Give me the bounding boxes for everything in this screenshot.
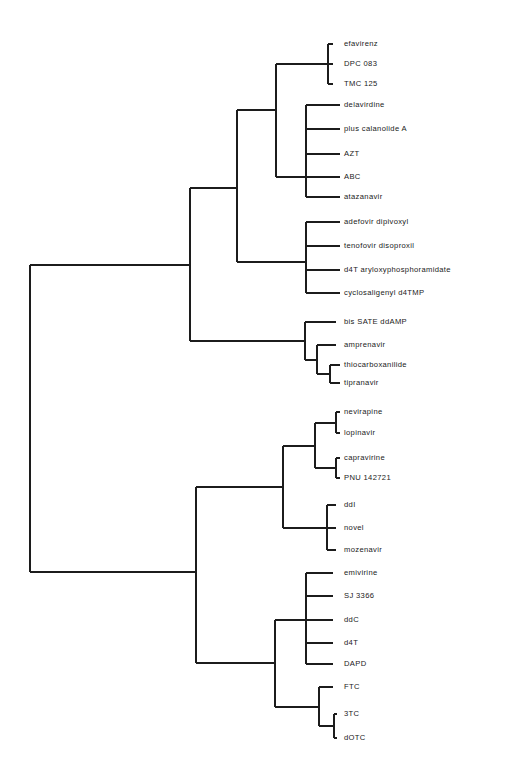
leaf-label-thiocarboxanilide: thiocarboxanilide [344,360,407,369]
leaf-label-3tc: 3TC [344,709,360,718]
leaf-label-azt: AZT [344,149,359,158]
leaf-label-capravirine: capravirine [344,453,385,462]
leaf-label-amprenavir: amprenavir [344,340,386,349]
dendrogram-figure: efavirenzDPC 083TMC 125delavirdineplus c… [0,0,508,772]
leaf-label-dapd: DAPD [344,659,367,668]
leaf-label-tipranavir: tipranavir [344,378,379,387]
leaf-label-abc: ABC [344,172,361,181]
leaf-label-lopinavir: lopinavir [344,428,376,437]
branch-lines-group [30,44,340,738]
leaf-labels-group: efavirenzDPC 083TMC 125delavirdineplus c… [344,39,451,742]
leaf-label-plus-calanolide-a: plus calanolide A [344,124,408,133]
leaf-label-emivirine: emivirine [344,568,378,577]
leaf-label-novel: novel [344,523,364,532]
leaf-label-tmc-125: TMC 125 [344,79,378,88]
leaf-label-sj-3366: SJ 3366 [344,591,374,600]
leaf-label-bis-sate-ddamp: bis SATE ddAMP [344,317,407,326]
leaf-label-efavirenz: efavirenz [344,39,378,48]
leaf-label-ddc: ddC [344,615,359,624]
leaf-label-ftc: FTC [344,682,360,691]
leaf-label-cyclosaligenyl-d4tmp: cyclosaligenyl d4TMP [344,288,424,297]
leaf-label-atazanavir: atazanavir [344,192,383,201]
leaf-label-ddi: ddI [344,500,356,509]
dendrogram-canvas: efavirenzDPC 083TMC 125delavirdineplus c… [0,0,508,772]
leaf-label-dotc: dOTC [344,733,366,742]
leaf-label-delavirdine: delavirdine [344,100,385,109]
leaf-label-nevirapine: nevirapine [344,407,383,416]
leaf-label-mozenavir: mozenavir [344,545,382,554]
leaf-label-tenofovir-disoproxil: tenofovir disoproxil [344,241,414,250]
leaf-label-d4t-aryloxyphosphoramidate: d4T aryloxyphosphoramidate [344,265,451,274]
leaf-label-pnu-142721: PNU 142721 [344,473,391,482]
leaf-label-d4t: d4T [344,638,358,647]
leaf-label-adefovir-dipivoxyl: adefovir dipivoxyl [344,217,409,226]
leaf-label-dpc-083: DPC 083 [344,59,377,68]
